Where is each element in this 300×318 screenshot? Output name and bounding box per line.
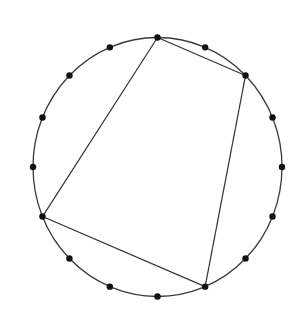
polygon-vertex-point (154, 34, 160, 40)
circle-diagram (0, 0, 300, 318)
circle-point (66, 72, 72, 78)
circle-point (269, 114, 275, 120)
circle-point (279, 164, 285, 170)
circle-point (202, 44, 208, 50)
circle-point (39, 114, 45, 120)
polygon-vertex-point (39, 213, 45, 219)
polygon-vertex-point (202, 283, 208, 289)
polygon-edge (42, 217, 205, 287)
circle-point (242, 255, 248, 261)
circle-points (30, 34, 285, 299)
circle-point (107, 283, 113, 289)
circle-point (154, 293, 160, 299)
polygon-edge (158, 38, 246, 76)
circle-point (269, 213, 275, 219)
circle-point (30, 164, 36, 170)
polygon-edge (205, 75, 245, 286)
circle-point (107, 44, 113, 50)
polygon-vertex-point (242, 72, 248, 78)
circle-point (66, 255, 72, 261)
quadrilateral (42, 38, 245, 287)
polygon-edge (42, 38, 157, 217)
